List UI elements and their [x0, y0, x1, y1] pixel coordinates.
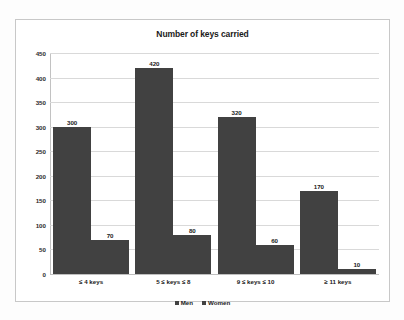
- bar-column: 80: [173, 235, 211, 274]
- legend-label: Women: [208, 299, 230, 306]
- bar-women[interactable]: [338, 269, 376, 274]
- y-axis-tick-label: 150: [36, 197, 46, 204]
- y-axis-tick-label: 50: [39, 246, 46, 253]
- bar-column: 420: [135, 68, 173, 274]
- bar-group: 42080: [132, 53, 214, 274]
- bar-value-label: 420: [149, 60, 159, 67]
- chart-legend: MenWomen: [16, 299, 389, 306]
- bar-column: 170: [300, 191, 338, 274]
- y-axis-tick-label: 400: [36, 74, 46, 81]
- bar-column: 300: [53, 127, 91, 274]
- bar-value-label: 10: [353, 261, 360, 268]
- bar-value-label: 70: [107, 232, 114, 239]
- legend-label: Men: [181, 299, 193, 306]
- y-axis-tick-label: 100: [36, 221, 46, 228]
- bar-value-label: 320: [231, 109, 241, 116]
- bar-group: 32060: [215, 53, 297, 274]
- y-axis-tick-label: 450: [36, 50, 46, 57]
- bar-men[interactable]: [53, 127, 91, 274]
- bar-pair: 32060: [218, 117, 294, 274]
- legend-swatch-icon: [202, 301, 206, 305]
- bar-value-label: 80: [189, 227, 196, 234]
- bar-value-label: 60: [271, 237, 278, 244]
- plot-area: 450400350300250200150100500 300704208032…: [50, 53, 379, 274]
- y-axis-tick-label: 350: [36, 99, 46, 106]
- bar-group: 30070: [50, 53, 132, 274]
- chart-title: Number of keys carried: [16, 29, 389, 39]
- scanned-page: Number of keys carried 45040035030025020…: [0, 0, 404, 320]
- y-axis-tick-label: 250: [36, 148, 46, 155]
- bar-column: 320: [218, 117, 256, 274]
- legend-swatch-icon: [175, 301, 179, 305]
- bar-women[interactable]: [173, 235, 211, 274]
- bar-men[interactable]: [135, 68, 173, 274]
- x-axis-labels: ≤ 4 keys5 ≤ keys ≤ 89 ≤ keys ≤ 10≥ 11 ke…: [50, 278, 379, 285]
- bar-men[interactable]: [300, 191, 338, 274]
- legend-item-women[interactable]: Women: [202, 299, 230, 306]
- bar-column: 60: [256, 245, 294, 274]
- bar-pair: 30070: [53, 127, 129, 274]
- x-axis-category-label: 9 ≤ keys ≤ 10: [215, 278, 297, 285]
- bar-value-label: 170: [314, 183, 324, 190]
- chart-frame: Number of keys carried 45040035030025020…: [15, 19, 390, 302]
- bar-men[interactable]: [218, 117, 256, 274]
- y-axis-tick-label: 200: [36, 172, 46, 179]
- bar-group: 17010: [297, 53, 379, 274]
- bar-women[interactable]: [256, 245, 294, 274]
- bar-column: 70: [91, 240, 129, 274]
- y-axis-tick-label: 0: [43, 271, 46, 278]
- bar-pair: 42080: [135, 68, 211, 274]
- y-axis-tick-label: 300: [36, 123, 46, 130]
- bar-column: 10: [338, 269, 376, 274]
- bar-women[interactable]: [91, 240, 129, 274]
- x-axis-category-label: ≤ 4 keys: [50, 278, 132, 285]
- x-axis-category-label: ≥ 11 keys: [297, 278, 379, 285]
- gridline: 0: [50, 274, 379, 275]
- x-axis-category-label: 5 ≤ keys ≤ 8: [132, 278, 214, 285]
- bar-pair: 17010: [300, 191, 376, 274]
- bar-value-label: 300: [67, 119, 77, 126]
- bar-groups: 30070420803206017010: [50, 53, 379, 274]
- legend-item-men[interactable]: Men: [175, 299, 193, 306]
